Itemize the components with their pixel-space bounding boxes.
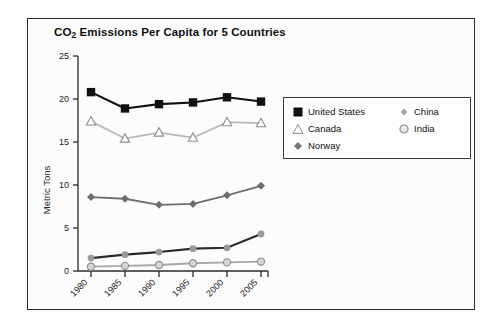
y-axis [73,56,78,271]
data-point [87,193,95,201]
data-point [87,88,95,96]
series-india [87,258,264,270]
legend-item-canada[interactable]: Canada [291,120,365,137]
x-tick-2000: 2000 [204,277,225,298]
data-point [189,260,196,267]
y-tick-20: 20 [59,94,69,104]
data-point [87,263,94,270]
y-tick-0: 0 [64,266,69,276]
x-axis [78,271,268,277]
data-point [122,251,129,258]
legend-item-india[interactable]: India [397,120,439,137]
data-point [223,93,231,101]
data-point [189,200,197,208]
data-point [86,117,95,125]
x-tick-2005: 2005 [238,277,259,298]
chart-legend: United States Canada Norway China [283,97,471,159]
legend-item-norway[interactable]: Norway [291,137,365,154]
data-point [155,201,163,209]
y-tick-10: 10 [59,180,69,190]
series-china [88,231,265,262]
data-point [189,98,197,106]
series-united-states [87,88,265,113]
x-tick-1990: 1990 [136,277,157,298]
legend-label-norway: Norway [308,140,340,151]
open-circle-icon [397,122,411,136]
small-diamond-icon [397,105,411,119]
x-tick-1995: 1995 [170,277,191,298]
legend-label-india: India [414,123,435,134]
legend-label-united-states: United States [308,106,365,117]
legend-column-right: China India [397,103,439,137]
data-point [258,231,265,238]
x-tick-1980: 1980 [68,277,89,298]
data-point [156,249,163,256]
data-point [257,258,264,265]
y-tick-5: 5 [64,223,69,233]
data-point [223,259,230,266]
data-point [155,100,163,108]
x-tick-1985: 1985 [102,277,123,298]
series-norway [87,182,265,209]
series-layer [86,88,265,270]
legend-item-united-states[interactable]: United States [291,103,365,120]
data-point [154,128,163,136]
diamond-icon [291,139,305,153]
legend-label-china: China [414,106,439,117]
y-tick-25: 25 [59,51,69,61]
data-point [121,104,129,112]
data-point [121,195,129,203]
x-tick-labels: 1980 1985 1990 1995 2000 2005 [68,277,259,298]
open-triangle-icon [291,122,305,136]
series-canada [86,117,265,143]
data-point [190,245,197,252]
chart-plot: 25 20 15 10 5 0 Metric Tons 1980 1985 19… [0,0,502,328]
data-point [88,255,95,262]
data-point [257,182,265,190]
figure-canvas: CO2 Emissions Per Capita for 5 Countries… [0,0,502,328]
data-point [224,244,231,251]
legend-column-left: United States Canada Norway [291,103,365,154]
y-tick-15: 15 [59,137,69,147]
legend-label-canada: Canada [308,123,341,134]
y-tick-labels: 25 20 15 10 5 0 [59,51,69,276]
data-point [121,262,128,269]
legend-item-china[interactable]: China [397,103,439,120]
filled-square-icon [291,105,305,119]
y-axis-title: Metric Tons [41,166,52,215]
data-point [155,261,162,268]
data-point [223,191,231,199]
data-point [257,97,265,105]
